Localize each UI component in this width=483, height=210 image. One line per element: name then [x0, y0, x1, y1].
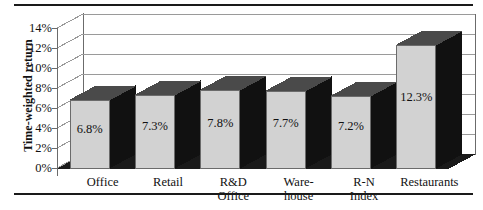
category-label-line1: R-N	[353, 175, 375, 189]
category-label: Restaurants	[400, 176, 458, 190]
bar-value-label: 12.3%	[400, 89, 432, 104]
category-label: Office	[87, 176, 119, 190]
bar-value-label: 7.2%	[338, 119, 364, 134]
category-label: R&DOffice	[217, 176, 249, 203]
category-label-line2: Office	[217, 190, 249, 204]
bar-value-label: 6.8%	[77, 121, 103, 136]
category-label-line2: Index	[350, 190, 378, 204]
category-label-line1: Office	[87, 175, 119, 189]
bar-value-label: 7.3%	[142, 118, 168, 133]
category-label-line1: Retail	[153, 175, 183, 189]
category-label-line1: R&D	[220, 175, 247, 189]
bottom-rule	[14, 193, 473, 195]
category-label: Ware-house	[284, 176, 314, 203]
bar-value-label: 7.7%	[273, 116, 299, 131]
category-label-line1: Restaurants	[400, 175, 458, 189]
category-label: R-NIndex	[350, 176, 378, 203]
chart-container: Time-weighted return 0%2%4%6%8%10%12%14%…	[0, 0, 483, 210]
category-label-line2: house	[284, 190, 314, 204]
category-label: Retail	[153, 176, 183, 190]
category-label-line1: Ware-	[284, 175, 314, 189]
bar-value-label: 7.8%	[207, 115, 233, 130]
